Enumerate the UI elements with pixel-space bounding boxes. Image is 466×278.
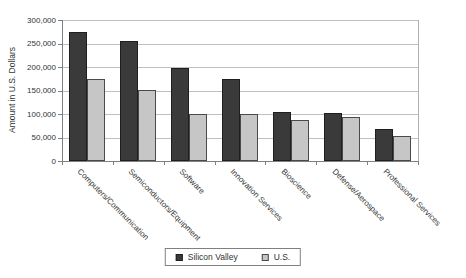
y-tick-label: 250,000 [14,39,56,48]
bar-u-s-defense-aerospace [342,117,360,161]
x-tick-mark [164,161,165,165]
x-tick-mark [113,161,114,165]
bar-silicon-valley-innovation-services [222,79,240,161]
y-tick-mark [58,114,62,115]
bar-silicon-valley-software [171,68,189,161]
bar-u-s-semiconductors-equipment [138,90,156,161]
y-tick-mark [58,138,62,139]
y-tick-label: 50,000 [14,133,56,142]
bar-u-s-professional-services [393,136,411,161]
legend-label-us: U.S. [274,252,291,262]
legend-label-silicon-valley: Silicon Valley [188,252,238,262]
y-tick-mark [58,91,62,92]
x-tick-mark [265,161,266,165]
x-tick-mark [316,161,317,165]
bar-u-s-computers-communication [87,79,105,161]
bar-silicon-valley-semiconductors-equipment [120,41,138,161]
y-tick-mark [58,67,62,68]
bar-silicon-valley-computers-communication [69,32,87,161]
category-label-bioscience: Bioscience [279,167,313,201]
x-tick-mark [367,161,368,165]
bar-silicon-valley-bioscience [273,112,291,161]
y-axis-line [62,20,63,162]
x-tick-mark [418,161,419,165]
gridline [62,44,418,45]
y-tick-label: 150,000 [14,86,56,95]
plot-border-right [418,20,419,161]
gridline [62,67,418,68]
bar-u-s-software [189,114,207,161]
legend-swatch-silicon-valley [176,254,183,261]
x-tick-mark [62,161,63,165]
gridline [62,20,418,21]
bar-u-s-innovation-services [240,114,258,161]
legend-swatch-us [262,254,269,261]
y-tick-label: 100,000 [14,110,56,119]
bar-silicon-valley-professional-services [375,129,393,161]
category-label-software: Software [178,167,207,196]
category-label-professional-services: Professional Services [381,167,442,228]
category-label-innovation-services: Innovation Services [229,167,285,223]
bar-u-s-bioscience [291,120,309,161]
bar-chart: Amount in U.S. Dollars 050,000100,000150… [0,0,466,278]
y-tick-label: 300,000 [14,16,56,25]
gridline [62,91,418,92]
x-tick-mark [215,161,216,165]
y-tick-mark [58,20,62,21]
legend: Silicon Valley U.S. [165,248,301,266]
y-tick-mark [58,44,62,45]
bar-silicon-valley-defense-aerospace [324,113,342,161]
y-tick-label: 0 [14,157,56,166]
x-axis-line [62,161,419,162]
category-label-defense-aerospace: Defense/Aerospace [330,167,386,223]
y-tick-label: 200,000 [14,63,56,72]
